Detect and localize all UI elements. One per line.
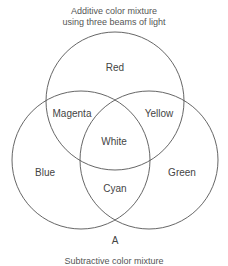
label-yellow: Yellow bbox=[145, 108, 174, 119]
label-white: White bbox=[101, 136, 127, 147]
label-cyan: Cyan bbox=[103, 183, 126, 194]
label-red: Red bbox=[106, 62, 124, 73]
caption: Subtractive color mixture bbox=[0, 256, 228, 266]
label-blue: Blue bbox=[35, 167, 55, 178]
label-green: Green bbox=[168, 167, 196, 178]
red-circle bbox=[46, 32, 184, 170]
label-point-a: A bbox=[112, 235, 119, 246]
label-magenta: Magenta bbox=[53, 108, 92, 119]
